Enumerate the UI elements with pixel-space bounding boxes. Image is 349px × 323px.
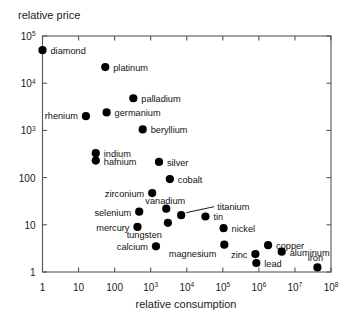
data-point-marker — [177, 211, 185, 219]
axis-tick-label: 105 — [21, 30, 36, 42]
data-point: calcium — [117, 242, 160, 252]
axis-tick-label: 100 — [106, 282, 123, 293]
data-point-label: tin — [213, 212, 223, 222]
data-point-marker — [166, 175, 174, 183]
data-point: tungsten — [127, 219, 172, 240]
data-point: zinc — [231, 250, 259, 260]
data-point-label: calcium — [117, 242, 148, 252]
axis-tick-label: 104 — [21, 78, 36, 90]
chart-canvas: relative price relative consumption 1101… — [0, 0, 349, 323]
data-point-label: hafnium — [104, 157, 137, 167]
axis-tick-label: 108 — [324, 281, 339, 293]
data-point: diamond — [38, 46, 85, 56]
axis-tick-label: 107 — [288, 281, 303, 293]
leader-line — [186, 207, 214, 213]
data-point-label: cobalt — [178, 175, 203, 185]
axis-ticks — [43, 36, 332, 272]
data-point: palladium — [129, 94, 181, 104]
x-axis-title: relative consumption — [136, 298, 237, 310]
data-point-marker — [201, 212, 209, 220]
data-point-marker — [219, 224, 227, 232]
data-point-marker — [103, 108, 111, 116]
axis-tick-label: 100 — [19, 173, 36, 184]
data-point-marker — [220, 241, 228, 249]
data-point-marker — [92, 156, 100, 164]
data-point-marker — [135, 208, 143, 216]
data-point-marker — [251, 250, 259, 258]
data-point-label: lead — [264, 259, 281, 269]
data-point-label: mercury — [96, 223, 130, 233]
data-point-marker — [155, 158, 163, 166]
data-point: iron — [308, 253, 323, 271]
data-point-marker — [164, 219, 172, 227]
data-point-marker — [278, 248, 286, 256]
data-point: selenium — [94, 208, 143, 218]
axis-tick-label: 104 — [179, 281, 194, 293]
data-point-label: silver — [167, 158, 188, 168]
data-point: germanium — [103, 108, 161, 118]
data-point-marker — [313, 263, 321, 271]
data-point-marker — [264, 241, 272, 249]
data-point: cobalt — [166, 175, 203, 185]
data-point-label: palladium — [141, 94, 181, 104]
data-point: beryllium — [139, 125, 188, 135]
data-point-label: rhenium — [45, 111, 79, 121]
data-point-label: zinc — [231, 250, 248, 260]
data-point-label: germanium — [115, 108, 161, 118]
data-point: nickel — [219, 224, 255, 234]
data-point-marker — [101, 63, 109, 71]
plot-frame — [43, 36, 332, 272]
data-point-marker — [252, 259, 260, 267]
axis-tick-label: 103 — [21, 125, 36, 137]
data-point-label: selenium — [94, 208, 131, 218]
scatter-plot-figure: relative price relative consumption 1101… — [0, 0, 349, 323]
y-axis-title-text: relative price — [18, 9, 80, 21]
data-point: platinum — [101, 63, 148, 73]
data-point-marker — [152, 242, 160, 250]
data-point-label: titanium — [217, 202, 250, 212]
data-point-marker — [162, 205, 170, 213]
data-point-label: nickel — [232, 224, 256, 234]
data-point: lead — [252, 259, 281, 269]
axis-tick-label: 10 — [24, 220, 36, 231]
axis-tick-label: 10 — [73, 282, 85, 293]
axis-tick-label: 1 — [40, 282, 46, 293]
data-point-marker — [139, 125, 147, 133]
data-point: magnesium — [169, 241, 229, 259]
data-point-label: iron — [308, 253, 323, 263]
data-point-label: zirconium — [105, 189, 145, 199]
data-point: tin — [201, 212, 223, 222]
data-point-label: platinum — [113, 63, 148, 73]
data-point: vanadium — [145, 196, 185, 213]
leader-lines — [186, 207, 214, 213]
data-point-label: tungsten — [127, 230, 162, 240]
axis-tick-label: 1 — [30, 267, 36, 278]
axis-tick-label: 105 — [215, 281, 230, 293]
data-point-marker — [129, 94, 137, 102]
data-point: silver — [155, 158, 189, 168]
plot-border — [43, 36, 332, 272]
data-point-marker — [82, 112, 90, 120]
data-point-marker — [92, 149, 100, 157]
y-axis-title: relative price — [18, 9, 80, 21]
data-point: rhenium — [45, 111, 90, 121]
x-axis-title-text: relative consumption — [136, 298, 237, 310]
axis-tick-label: 106 — [252, 281, 267, 293]
axis-tick-label: 103 — [143, 281, 158, 293]
data-point-marker — [38, 46, 46, 54]
data-point-label: magnesium — [169, 249, 217, 259]
data-point-label: beryllium — [151, 125, 188, 135]
data-point: hafnium — [92, 156, 137, 166]
data-point-label: diamond — [51, 46, 86, 56]
data-points: diamondplatinumpalladiumrheniumgermanium… — [38, 46, 329, 271]
data-point-label: vanadium — [145, 196, 185, 206]
